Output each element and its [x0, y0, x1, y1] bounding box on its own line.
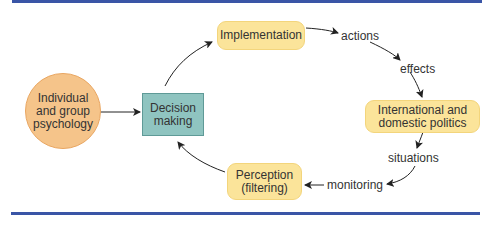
node-psychology-line2: and group	[33, 105, 93, 118]
arrow-actions-to-effects	[370, 42, 400, 60]
node-perception-line2: (filtering)	[236, 182, 293, 195]
node-implementation-line1: Implementation	[220, 29, 302, 42]
node-international-domestic-politics: International and domestic politics	[365, 100, 480, 133]
node-politics-line2: domestic politics	[378, 117, 467, 130]
edge-label-monitoring: monitoring	[327, 178, 383, 192]
node-decision-making: Decision making	[142, 93, 204, 136]
arrow-implementation-to-actions	[306, 28, 338, 33]
arrow-perception-to-decision	[178, 142, 225, 172]
node-decision-line1: Decision	[150, 102, 196, 115]
node-individual-group-psychology: Individual and group psychology	[25, 73, 101, 149]
edge-label-situations: situations	[388, 151, 439, 165]
arrow-decision-to-implementation	[165, 42, 212, 86]
node-psychology-line3: psychology	[33, 118, 93, 131]
node-implementation: Implementation	[217, 21, 305, 50]
node-politics-line1: International and	[378, 104, 467, 117]
node-decision-line2: making	[150, 115, 196, 128]
node-perception-line1: Perception	[236, 169, 293, 182]
edge-label-actions: actions	[341, 29, 379, 43]
edge-label-effects: effects	[400, 62, 435, 76]
arrow-politics-to-situations	[417, 132, 423, 148]
node-perception-filtering: Perception (filtering)	[227, 163, 302, 200]
node-psychology-line1: Individual	[33, 92, 93, 105]
arrow-situations-to-monitoring	[387, 166, 415, 184]
